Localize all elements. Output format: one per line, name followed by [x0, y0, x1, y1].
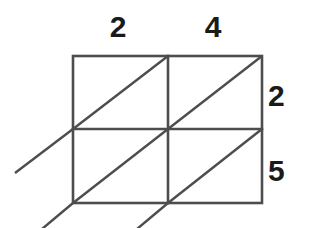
diagonal-extensions: [15, 129, 168, 228]
extension-lower-left: [42, 203, 73, 228]
diagonal-top-left-cell: [73, 56, 168, 129]
diagonal-top-right-cell: [168, 56, 262, 129]
column-label-left: 2: [100, 12, 136, 42]
extension-lower-middle: [137, 203, 168, 228]
extension-upper-left: [15, 129, 73, 173]
grid-figure: [0, 0, 327, 228]
column-label-right: 4: [195, 12, 231, 42]
row-label-bottom: 5: [268, 156, 298, 186]
diagonal-bottom-right-cell: [168, 129, 262, 203]
row-label-top: 2: [268, 81, 298, 111]
diagonal-bottom-left-cell: [73, 129, 168, 203]
diagram-canvas: 2 4 2 5: [0, 0, 327, 228]
